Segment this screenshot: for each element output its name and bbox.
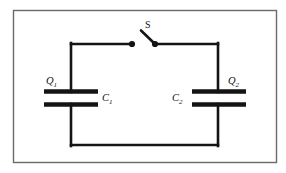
label-switch: S	[145, 19, 151, 30]
label-charge-right-subscript: 2	[236, 81, 240, 89]
circuit-diagram-svg: Q 1 C 1 Q 2 C 2 S	[0, 0, 286, 173]
label-capacitor-left-subscript: 1	[109, 98, 113, 106]
switch-lever[interactable]	[141, 31, 155, 45]
label-charge-left-subscript: 1	[54, 81, 58, 89]
circuit-figure: Q 1 C 1 Q 2 C 2 S	[0, 0, 286, 173]
label-capacitor-right-subscript: 2	[179, 98, 183, 106]
switch-terminal-left-dot[interactable]	[129, 41, 135, 47]
